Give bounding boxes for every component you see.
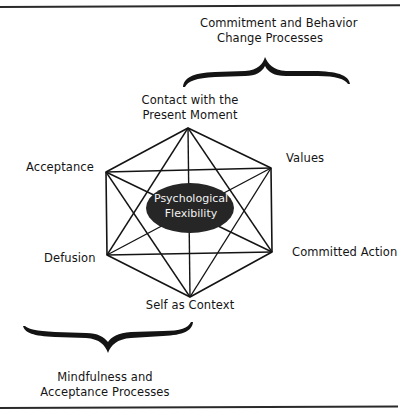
mindfulness-label-line1: Mindfulness and [40, 370, 170, 385]
core-label: Psychological Flexibility [146, 191, 236, 221]
contact-label-line2: Present Moment [130, 108, 250, 123]
node-self-as-context: Self as Context [140, 298, 240, 313]
node-contact-present-moment: Contact with the Present Moment [130, 93, 250, 123]
node-acceptance: Acceptance [26, 160, 94, 175]
node-defusion: Defusion [44, 251, 96, 266]
core-label-line1: Psychological [146, 191, 236, 206]
mindfulness-brace [23, 322, 193, 353]
commitment-brace [183, 57, 350, 87]
mindfulness-group-label: Mindfulness and Acceptance Processes [40, 370, 170, 400]
contact-label-line1: Contact with the [130, 93, 250, 108]
commitment-label-line2: Change Processes [200, 31, 340, 46]
commitment-group-label: Commitment and Behavior Change Processes [200, 16, 340, 46]
node-committed-action: Committed Action [292, 245, 397, 260]
commitment-label-line1: Commitment and Behavior [200, 16, 340, 31]
node-values: Values [286, 151, 324, 166]
core-label-line2: Flexibility [146, 206, 236, 221]
mindfulness-label-line2: Acceptance Processes [40, 385, 170, 400]
